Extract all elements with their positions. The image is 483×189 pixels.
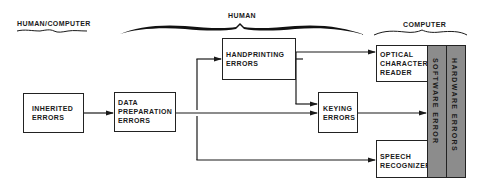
- ocr-line-3: READER: [380, 68, 428, 77]
- computer-label: COMPUTER: [403, 20, 446, 29]
- hardware-errors-label: HARDWARE ERRORS: [451, 58, 458, 152]
- inherited-line-1: INHERITED: [32, 104, 73, 113]
- keying-line-2: ERRORS: [323, 113, 355, 122]
- human-computer-wave: [17, 30, 87, 32]
- speech-line-1: SPEECH: [380, 152, 431, 161]
- ocr-line-2: CHARACTER: [380, 59, 428, 68]
- data-preparation-errors-box: DATA PREPARATION ERRORS: [114, 92, 176, 132]
- data-prep-line-3: ERRORS: [118, 116, 172, 125]
- hardware-errors-column: HARDWARE ERRORS: [446, 45, 466, 178]
- inherited-line-2: ERRORS: [32, 113, 73, 122]
- keying-line-1: KEYING: [323, 104, 355, 113]
- inherited-errors-box: INHERITED ERRORS: [23, 93, 84, 133]
- handprinting-errors-box: HANDPRINTING ERRORS: [222, 38, 296, 80]
- data-prep-line-1: DATA: [118, 98, 172, 107]
- software-error-label: SOFTWARE ERROR: [432, 58, 439, 145]
- speech-recognizer-box: SPEECH RECOGNIZER: [376, 140, 428, 178]
- speech-line-2: RECOGNIZER: [380, 161, 431, 170]
- software-error-column: SOFTWARE ERROR: [427, 45, 447, 178]
- data-prep-line-2: PREPARATION: [118, 107, 172, 116]
- ocr-line-1: OPTICAL: [380, 50, 428, 59]
- keying-errors-box: KEYING ERRORS: [318, 92, 358, 133]
- human-label: HUMAN: [228, 11, 256, 20]
- error-sources-diagram: HUMAN/COMPUTER HUMAN COMPUTER INHERITED …: [0, 0, 483, 189]
- optical-character-reader-box: OPTICAL CHARACTER READER: [376, 45, 428, 82]
- human-computer-label: HUMAN/COMPUTER: [17, 19, 91, 28]
- human-brace: [120, 23, 365, 35]
- handprinting-line-2: ERRORS: [226, 59, 284, 68]
- handprinting-line-1: HANDPRINTING: [226, 50, 284, 59]
- computer-wave: [374, 30, 467, 35]
